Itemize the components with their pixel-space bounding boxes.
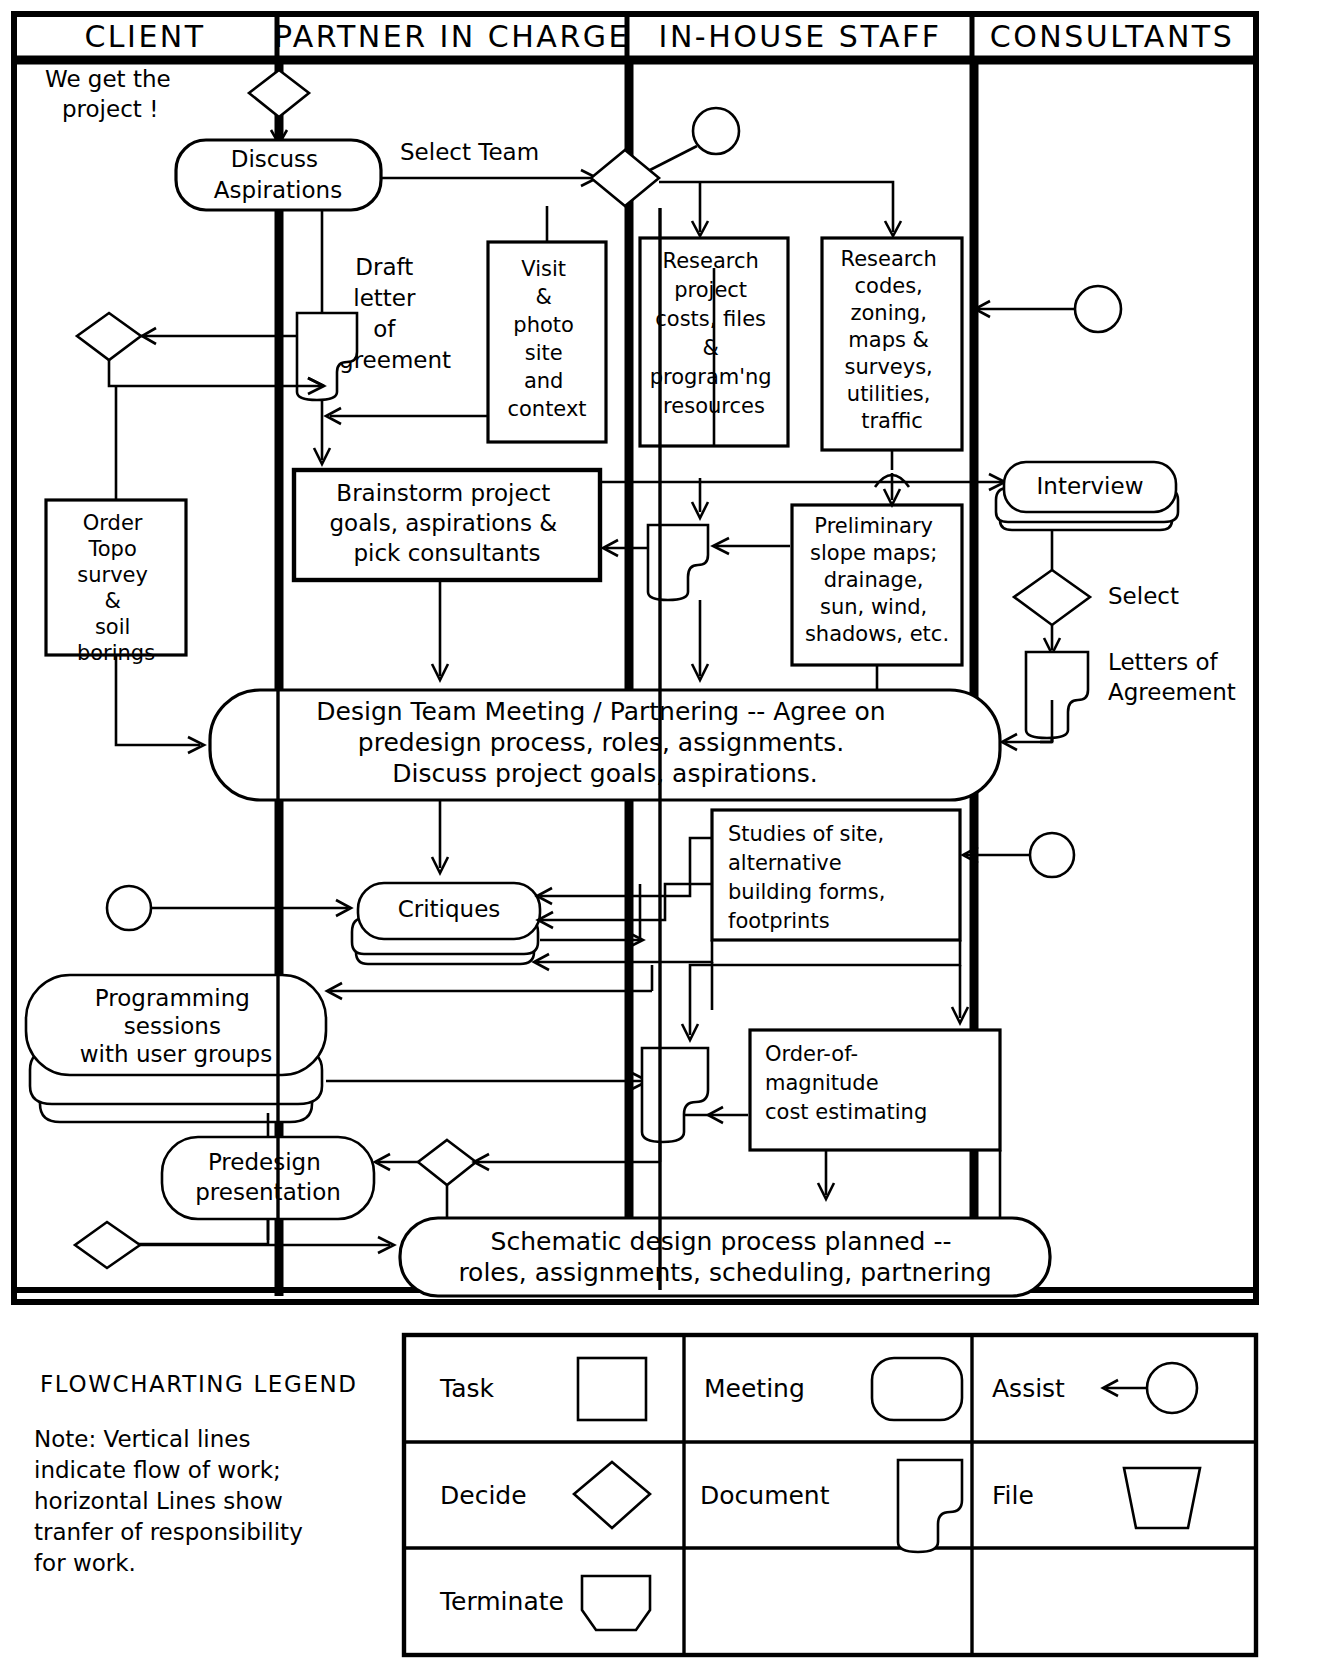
assist-circle-critiques bbox=[107, 886, 351, 930]
label-select-consultant: Select bbox=[1108, 583, 1179, 609]
note-we-get-project: We get the project ! bbox=[45, 66, 178, 122]
legend-title: FLOWCHARTING LEGEND bbox=[40, 1371, 358, 1397]
legend-note: Note: Vertical lines indicate flow of wo… bbox=[34, 1426, 310, 1576]
node-critiques-label: Critiques bbox=[398, 896, 501, 922]
node-design-team-meeting-label: Design Team Meeting / Partnering -- Agre… bbox=[316, 697, 893, 788]
label-letters-agreement: Letters of Agreement bbox=[1108, 649, 1236, 705]
node-research-codes-label: Research codes, zoning, maps & surveys, … bbox=[840, 247, 943, 433]
decision-start bbox=[249, 70, 309, 144]
decision-select-team bbox=[591, 150, 659, 206]
legend-shape-meeting-rounded-rectangle bbox=[872, 1358, 962, 1420]
decision-client-agreement bbox=[77, 313, 324, 394]
legend-label-document: Document bbox=[700, 1481, 830, 1510]
legend-label-meeting: Meeting bbox=[704, 1374, 805, 1403]
legend-shape-task-rectangle bbox=[578, 1358, 646, 1420]
node-preliminary-slope-label: Preliminary slope maps; drainage, sun, w… bbox=[805, 514, 949, 646]
document-inhouse-cost bbox=[642, 1048, 748, 1142]
flowchart-page: CLIENT PARTNER IN CHARGE IN-HOUSE STAFF … bbox=[0, 0, 1342, 1665]
lane-header-client: CLIENT bbox=[84, 19, 205, 54]
lane-header-inhouse: IN-HOUSE STAFF bbox=[659, 19, 942, 54]
flowchart-canvas: CLIENT PARTNER IN CHARGE IN-HOUSE STAFF … bbox=[0, 0, 1342, 1665]
legend-shape-terminate-terminator bbox=[582, 1576, 650, 1630]
edge-select-team bbox=[381, 170, 597, 186]
decision-client-final bbox=[75, 1219, 394, 1268]
legend-label-terminate: Terminate bbox=[439, 1587, 564, 1616]
legend-label-task: Task bbox=[439, 1374, 494, 1403]
legend-label-file: File bbox=[992, 1481, 1034, 1510]
node-brainstorm-label: Brainstorm project goals, aspirations & … bbox=[330, 480, 565, 566]
assist-circle-research-codes bbox=[975, 286, 1121, 332]
edge-meeting-to-critiques bbox=[432, 800, 448, 873]
edge-programming-to-inhouse bbox=[326, 1073, 648, 1089]
assist-circle-team bbox=[650, 108, 739, 170]
lane-header-consultants: CONSULTANTS bbox=[990, 19, 1234, 54]
legend-label-assist: Assist bbox=[992, 1374, 1065, 1403]
edge-team-to-research bbox=[659, 182, 901, 236]
edge-topo-to-meeting bbox=[116, 655, 204, 753]
decision-select-consultant bbox=[1014, 570, 1090, 654]
node-interview-label: Interview bbox=[1037, 473, 1144, 499]
document-letters-agreement bbox=[1026, 652, 1088, 742]
legend-shape-file-trapezoid bbox=[1124, 1468, 1200, 1528]
line-hop-prelim bbox=[875, 450, 909, 505]
legend-label-decide: Decide bbox=[440, 1481, 527, 1510]
label-select-team: Select Team bbox=[400, 139, 539, 165]
assist-circle-studies bbox=[963, 833, 1074, 877]
lane-header-partner: PARTNER IN CHARGE bbox=[274, 19, 630, 54]
edge-prelim-to-doc bbox=[713, 538, 790, 554]
edge-to-programming bbox=[327, 965, 652, 999]
